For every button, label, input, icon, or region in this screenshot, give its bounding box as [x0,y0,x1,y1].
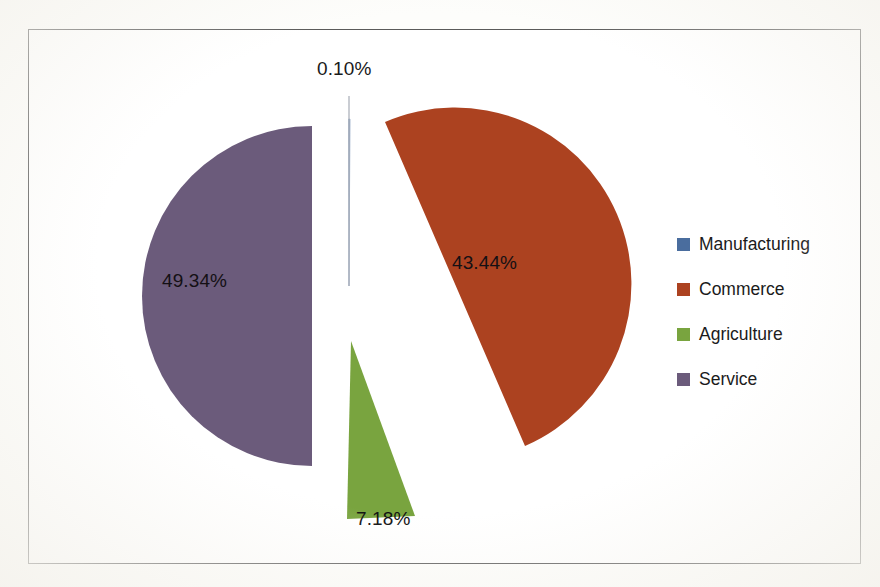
legend-label-manufacturing: Manufacturing [699,236,810,254]
chart-legend: Manufacturing Commerce Agriculture Servi… [677,222,857,402]
legend-swatch-agriculture [677,328,690,341]
data-label-agriculture: 7.18% [356,508,410,530]
pie-slice-service[interactable] [142,126,312,466]
pie-slice-commerce[interactable] [385,108,631,446]
legend-item-commerce[interactable]: Commerce [677,267,857,312]
legend-swatch-service [677,373,690,386]
pie-slice-agriculture[interactable] [347,341,415,519]
legend-swatch-commerce [677,283,690,296]
legend-item-service[interactable]: Service [677,357,857,402]
data-label-commerce: 43.44% [452,252,517,274]
legend-item-agriculture[interactable]: Agriculture [677,312,857,357]
legend-swatch-manufacturing [677,238,690,251]
legend-item-manufacturing[interactable]: Manufacturing [677,222,857,267]
legend-label-agriculture: Agriculture [699,326,783,344]
data-label-service: 49.34% [162,270,227,292]
data-label-manufacturing: 0.10% [317,58,371,80]
legend-label-service: Service [699,371,757,389]
chart-frame: 0.10% 43.44% 7.18% 49.34% Manufacturing … [28,29,861,564]
pie-chart-plot-area: 0.10% 43.44% 7.18% 49.34% Manufacturing … [29,30,862,565]
legend-label-commerce: Commerce [699,281,785,299]
